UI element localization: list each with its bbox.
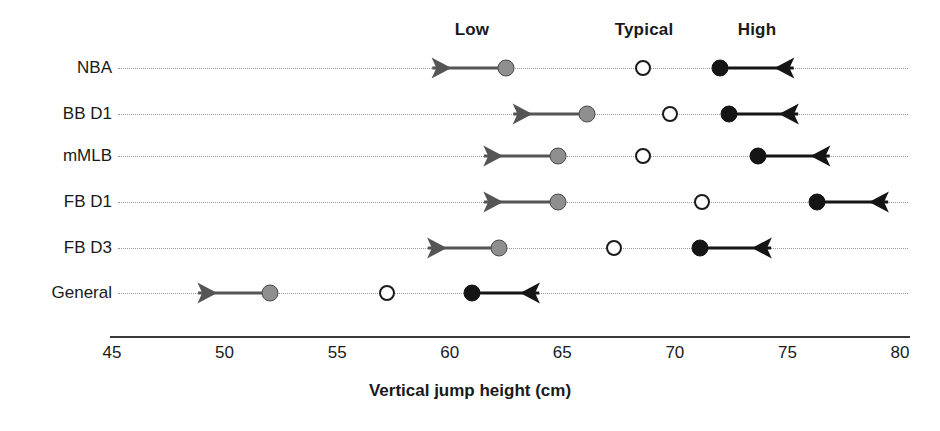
arrow-layer: [0, 0, 940, 431]
category-label-mmlb: mMLB: [63, 146, 112, 166]
x-tick-label: 65: [553, 343, 572, 363]
column-header-typical: Typical: [615, 20, 674, 40]
typical-marker: [379, 285, 395, 301]
x-tick-label: 45: [103, 343, 122, 363]
low-marker: [549, 148, 566, 165]
grid-line-row: [118, 156, 908, 157]
typical-marker: [694, 194, 710, 210]
low-marker: [579, 106, 596, 123]
grid-line-row: [118, 293, 908, 294]
typical-marker: [606, 240, 622, 256]
x-axis-line: [110, 336, 910, 338]
x-tick-label: 80: [891, 343, 910, 363]
high-marker: [464, 285, 481, 302]
category-label-bb-d1: BB D1: [63, 104, 112, 124]
low-marker: [261, 285, 278, 302]
x-tick-label: 50: [215, 343, 234, 363]
x-tick-label: 75: [778, 343, 797, 363]
high-marker: [750, 148, 767, 165]
typical-marker: [635, 60, 651, 76]
category-label-fb-d3: FB D3: [64, 238, 112, 258]
low-marker: [498, 60, 515, 77]
x-tick-label: 55: [328, 343, 347, 363]
typical-marker: [662, 106, 678, 122]
low-marker: [491, 240, 508, 257]
column-header-high: High: [738, 20, 777, 40]
category-label-general: General: [52, 283, 112, 303]
x-axis-title: Vertical jump height (cm): [0, 381, 940, 401]
low-marker: [549, 194, 566, 211]
grid-line-row: [118, 202, 908, 203]
x-tick-label: 60: [440, 343, 459, 363]
high-marker: [691, 240, 708, 257]
vertical-jump-height-chart: LowTypicalHigh NBABB D1mMLBFB D1FB D3Gen…: [0, 0, 940, 431]
grid-line-row: [118, 248, 908, 249]
x-tick-label: 70: [665, 343, 684, 363]
column-header-low: Low: [455, 20, 490, 40]
category-label-nba: NBA: [77, 58, 112, 78]
typical-marker: [635, 148, 651, 164]
high-marker: [720, 106, 737, 123]
high-marker: [808, 194, 825, 211]
category-label-fb-d1: FB D1: [64, 192, 112, 212]
grid-line-row: [118, 114, 908, 115]
high-marker: [711, 60, 728, 77]
